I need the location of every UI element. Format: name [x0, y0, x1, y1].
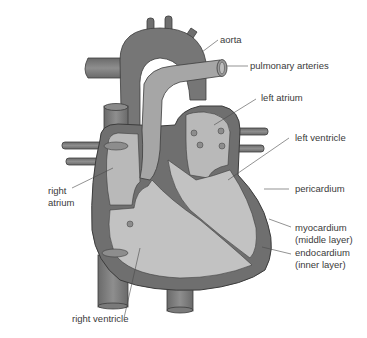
label-pulmonary-arteries: pulmonary arteries [250, 60, 329, 72]
label-endocardium: endocardium(inner layer) [295, 247, 350, 270]
label-left-atrium: left atrium [261, 92, 303, 104]
label-myocardium: myocardium(middle layer) [295, 222, 353, 245]
heart-diagram [0, 0, 367, 338]
label-right-ventricle: right ventricle [72, 313, 129, 325]
label-pericardium: pericardium [295, 183, 345, 195]
label-aorta: aorta [220, 34, 242, 46]
label-left-ventricle: left ventricle [295, 132, 346, 144]
label-right-atrium: rightatrium [48, 185, 74, 208]
